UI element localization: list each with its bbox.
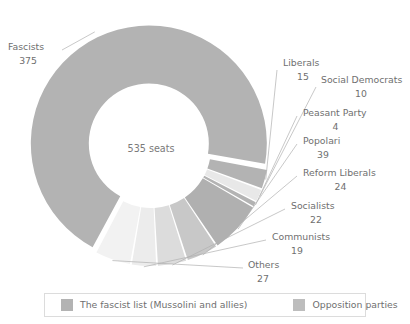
slice-label-liberals: Liberals [283, 57, 319, 68]
slice-value-liberals: 15 [297, 71, 309, 82]
slice-value-popolari: 39 [317, 149, 329, 160]
slice-label-socialists: Socialists [291, 200, 335, 211]
center-total-label: 535 seats [128, 143, 175, 154]
slice-label-social-democrats: Social Democrats [321, 74, 402, 85]
slice-label-others: Others [248, 259, 279, 270]
legend-item-opposition: Opposition parties [293, 299, 397, 311]
donut-chart: 535 seats Fascists375Liberals15Social De… [0, 0, 410, 324]
slice-value-social-democrats: 10 [355, 88, 367, 99]
legend-swatch-opposition [293, 299, 305, 311]
legend-swatch-fascist [61, 299, 73, 311]
legend-label-opposition: Opposition parties [312, 300, 397, 309]
legend-label-fascist: The fascist list (Mussolini and allies) [80, 300, 247, 309]
slice-value-communists: 19 [291, 245, 303, 256]
slice-value-peasant-party: 4 [333, 121, 339, 132]
slice-value-socialists: 22 [310, 214, 322, 225]
legend-item-fascist-list: The fascist list (Mussolini and allies) [61, 299, 247, 311]
slice-label-fascists: Fascists [8, 41, 44, 52]
slice-value-fascists: 375 [19, 55, 37, 66]
slice-label-reform-liberals: Reform Liberals [303, 167, 376, 178]
slice-label-popolari: Popolari [303, 135, 340, 146]
slice-value-reform-liberals: 24 [335, 181, 347, 192]
slice-label-communists: Communists [272, 231, 330, 242]
chart-legend: The fascist list (Mussolini and allies) … [44, 293, 366, 317]
slice-value-others: 27 [257, 273, 269, 284]
donut-chart-svg: 535 seats Fascists375Liberals15Social De… [0, 0, 410, 324]
slice-label-peasant-party: Peasant Party [303, 107, 367, 118]
